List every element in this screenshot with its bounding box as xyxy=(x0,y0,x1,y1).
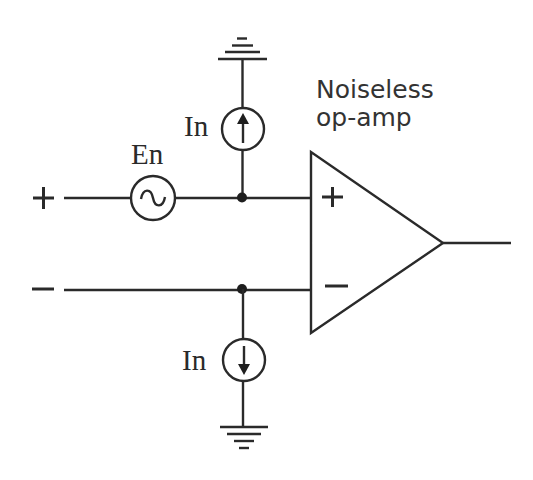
noise-model-diagram: En In In xyxy=(0,0,533,480)
ground-icon-bottom xyxy=(220,427,268,448)
current-noise-source-top xyxy=(222,108,264,150)
plus-input-terminal-sign xyxy=(33,187,54,209)
in-label-bottom: In xyxy=(182,344,207,376)
in-label-top: In xyxy=(184,110,209,142)
noiseless-op-amp xyxy=(311,152,443,333)
voltage-noise-source xyxy=(131,176,175,220)
en-label: En xyxy=(131,138,164,170)
current-noise-source-bottom xyxy=(223,339,265,381)
opamp-title-line1: Noiseless xyxy=(316,75,434,104)
ground-icon-top xyxy=(218,39,267,60)
plus-node-junction xyxy=(237,193,247,203)
opamp-title-line2: op-amp xyxy=(316,103,412,132)
